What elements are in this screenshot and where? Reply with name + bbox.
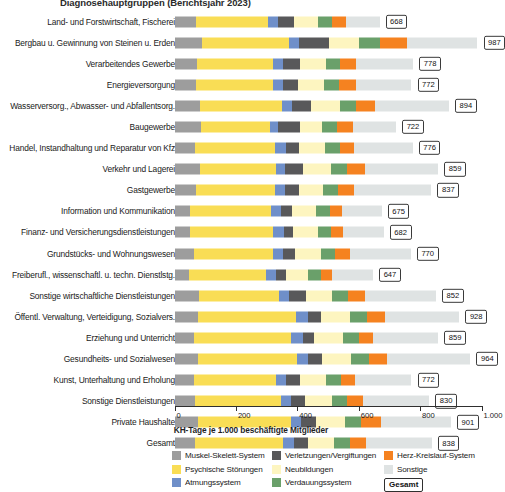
bar-segment [316, 206, 330, 217]
chart-row: Land- und Forstwirtschaft, Fischerei668 [0, 11, 502, 32]
bar-segment [300, 58, 326, 69]
bar-segment [196, 79, 273, 90]
bar-segment [276, 269, 286, 280]
chart-row: Gesundheits- und Sozialwesen964 [0, 349, 502, 370]
bar-segment [175, 438, 196, 449]
chart-row: Verkehr und Lagerei859 [0, 159, 502, 180]
legend-swatch [384, 451, 393, 460]
bar-segment [311, 100, 339, 111]
stacked-bar [175, 375, 412, 386]
bar-segment [175, 122, 201, 133]
bar-segment [175, 375, 194, 386]
bar-segment [366, 438, 432, 449]
bar-segment [175, 58, 197, 69]
category-label: Wasserversorg., Abwasser- und Abfallents… [10, 101, 175, 111]
stacked-bar [175, 185, 432, 196]
bar-segment [201, 122, 270, 133]
bar-segment [308, 438, 334, 449]
x-axis-tick-label: 200 [236, 411, 251, 420]
bar-segment [175, 164, 200, 175]
bar-segment [343, 332, 359, 343]
x-axis-tick-label: 800 [420, 411, 435, 420]
bar-segment [329, 37, 360, 48]
chart-row: Bergbau u. Gewinnung von Steinen u. Erde… [0, 32, 502, 53]
bar-segment [200, 100, 282, 111]
bar-segment [276, 375, 286, 386]
bar-segment [335, 248, 350, 259]
bar-segment [407, 37, 477, 48]
stacked-bar [175, 79, 412, 90]
bar-segment [359, 37, 380, 48]
stacked-bar [175, 37, 478, 48]
bar-segment [350, 311, 367, 322]
legend-item: Verdauungssystem [272, 478, 384, 487]
chart-row: Verarbeitendes Gewerbe778 [0, 53, 502, 74]
bar-segment [308, 354, 322, 365]
bar-segment [306, 290, 332, 301]
bar-segment [387, 354, 471, 365]
category-label: Verarbeitendes Gewerbe [86, 59, 175, 69]
bar-segment [321, 269, 332, 280]
stacked-bar [175, 248, 411, 259]
bar-segment [321, 311, 350, 322]
bar-segment [197, 58, 274, 69]
bar-segment [270, 122, 279, 133]
stacked-bar [175, 332, 439, 343]
bar-segment [303, 332, 314, 343]
bar-segment [281, 206, 292, 217]
bar-segment [356, 58, 413, 69]
bar-segment [195, 438, 283, 449]
legend-label: Herz-Kreislauf-System [397, 451, 475, 460]
bar-segment [266, 269, 276, 280]
bar-segment [196, 16, 268, 27]
chart-row: Erziehung und Unterricht859 [0, 327, 502, 348]
bar-segment [293, 227, 318, 238]
bar-segment [356, 79, 412, 90]
bar-segment [332, 16, 346, 27]
chart-row: Energieversorgung772 [0, 74, 502, 95]
category-label: Handel, Instandhaltung und Reparatur von… [9, 143, 175, 153]
bar-segment [275, 143, 285, 154]
bar-segment [175, 290, 200, 301]
bar-segment [322, 354, 351, 365]
bar-segment [285, 164, 303, 175]
bar-segment [308, 311, 322, 322]
bar-segment [200, 164, 276, 175]
bar-segment [350, 248, 411, 259]
bar-segment [296, 311, 308, 322]
bar-segment [340, 143, 355, 154]
category-label: Verkehr und Lagerei [102, 164, 175, 174]
category-label: Finanz- und Versicherungsdienstleistunge… [21, 227, 175, 237]
bar-segment [194, 248, 273, 259]
bar-segment [323, 185, 338, 196]
bar-segment [292, 206, 316, 217]
bar-value-label: 837 [437, 183, 459, 197]
bar-segment [286, 143, 300, 154]
x-axis-tick-label: 600 [359, 411, 374, 420]
bar-segment [331, 164, 347, 175]
bar-segment [175, 185, 196, 196]
stacked-bar [175, 269, 374, 280]
bar-segment [324, 79, 339, 90]
bar-segment [282, 100, 292, 111]
bar-value-label: 859 [444, 331, 466, 345]
bar-value-label: 772 [418, 373, 440, 387]
bar-segment [198, 311, 296, 322]
bar-value-label: 778 [419, 57, 441, 71]
x-axis-tick-label: 0 [175, 411, 181, 420]
chart-row: Information und Kommunikation675 [0, 201, 502, 222]
bar-value-label: 682 [390, 225, 412, 239]
category-label: Gastgewerbe [127, 185, 175, 195]
bar-segment [373, 332, 438, 343]
chart-row: Öffentl. Verwaltung, Verteidigung, Sozia… [0, 306, 502, 327]
bar-segment [334, 438, 349, 449]
legend-label: Muskel-Skelett-System [185, 451, 265, 460]
category-label: Grundstücks- und Wohnungswesen [47, 249, 175, 259]
bar-segment [348, 290, 366, 301]
stacked-bar [175, 311, 460, 322]
chart-row: Kunst, Unterhaltung und Erholung772 [0, 370, 502, 391]
bar-value-label: 668 [386, 14, 408, 28]
x-axis-tick-label: 1.000 [482, 411, 503, 420]
bar-segment [294, 16, 319, 27]
stacked-bar [175, 100, 449, 111]
